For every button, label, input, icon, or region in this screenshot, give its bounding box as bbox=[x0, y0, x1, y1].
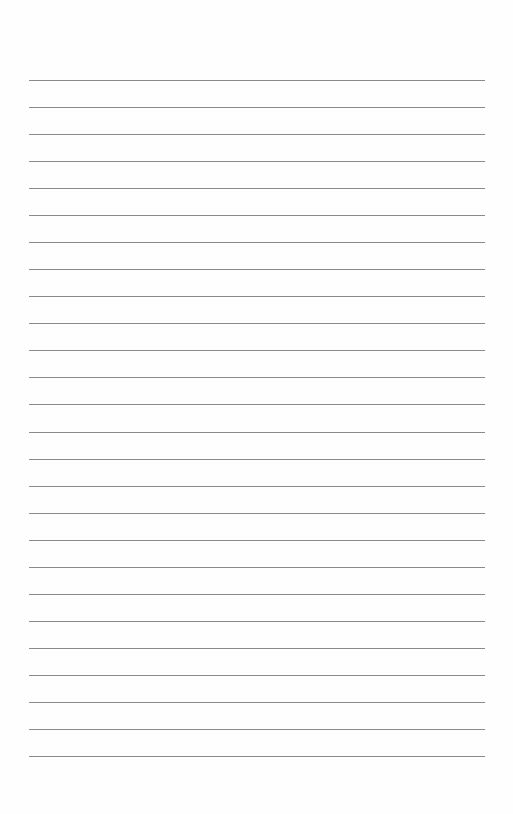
ruled-line bbox=[29, 404, 485, 405]
ruled-line bbox=[29, 161, 485, 162]
ruled-line bbox=[29, 432, 485, 433]
ruled-line bbox=[29, 702, 485, 703]
ruled-line bbox=[29, 377, 485, 378]
ruled-line bbox=[29, 513, 485, 514]
ruled-line bbox=[29, 540, 485, 541]
ruled-line bbox=[29, 323, 485, 324]
ruled-line bbox=[29, 80, 485, 81]
ruled-line bbox=[29, 459, 485, 460]
ruled-line bbox=[29, 729, 485, 730]
ruled-line bbox=[29, 296, 485, 297]
ruled-line bbox=[29, 188, 485, 189]
ruled-line bbox=[29, 107, 485, 108]
ruled-line bbox=[29, 242, 485, 243]
ruled-line bbox=[29, 350, 485, 351]
ruled-line bbox=[29, 215, 485, 216]
ruled-line bbox=[29, 594, 485, 595]
ruled-line bbox=[29, 486, 485, 487]
ruled-line bbox=[29, 675, 485, 676]
ruled-line bbox=[29, 567, 485, 568]
ruled-line bbox=[29, 269, 485, 270]
ruled-line bbox=[29, 648, 485, 649]
ruled-line bbox=[29, 756, 485, 757]
ruled-line bbox=[29, 134, 485, 135]
ruled-line bbox=[29, 621, 485, 622]
lined-paper-page bbox=[0, 0, 513, 814]
